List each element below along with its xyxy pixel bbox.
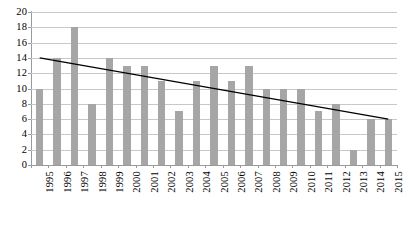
x-tick-mark [205,165,206,168]
x-tick-label: 2005 [219,171,230,193]
x-tick-label: 2007 [253,171,264,193]
trendline [40,58,389,119]
trendline-layer [31,12,397,165]
x-tick-label: 2009 [288,171,299,193]
plot-area [31,12,397,165]
x-tick-mark [327,165,328,168]
x-tick-mark [397,165,398,168]
x-axis: 1995199619971998199920002001200220032004… [31,165,397,225]
x-tick-label: 2004 [201,171,212,193]
x-tick-mark [101,165,102,168]
x-tick-mark [223,165,224,168]
x-tick-mark [170,165,171,168]
x-tick-label: 2010 [306,171,317,193]
x-tick-mark [345,165,346,168]
x-tick-label: 2003 [184,171,195,193]
y-tick-label: 10 [16,84,27,94]
y-tick-label: 4 [22,129,27,139]
x-tick-label: 2014 [375,171,386,193]
x-tick-label: 2011 [323,171,334,192]
x-tick-label: 2015 [393,171,404,193]
y-axis: 02468101214161820 [0,0,30,225]
x-tick-mark [380,165,381,168]
y-tick-label: 18 [16,22,27,32]
x-tick-mark [31,165,32,168]
x-tick-label: 2006 [236,171,247,193]
x-tick-label: 1999 [114,171,125,193]
y-tick-label: 20 [16,7,27,17]
x-tick-mark [258,165,259,168]
x-tick-label: 2012 [341,171,352,193]
x-tick-mark [240,165,241,168]
x-tick-mark [48,165,49,168]
x-tick-label: 2013 [358,171,369,193]
x-tick-label: 2008 [271,171,282,193]
x-tick-label: 2000 [131,171,142,193]
x-tick-mark [153,165,154,168]
x-tick-mark [310,165,311,168]
y-tick-label: 0 [22,160,27,170]
x-tick-mark [118,165,119,168]
x-tick-mark [275,165,276,168]
x-tick-label: 2001 [149,171,160,193]
y-tick-label: 8 [22,99,27,109]
x-tick-mark [136,165,137,168]
x-tick-label: 1995 [44,171,55,193]
x-tick-mark [66,165,67,168]
x-tick-mark [362,165,363,168]
x-tick-label: 1998 [97,171,108,193]
y-tick-label: 12 [16,68,27,78]
x-tick-mark [188,165,189,168]
x-tick-mark [83,165,84,168]
y-tick-label: 6 [22,114,27,124]
y-tick-label: 2 [22,145,27,155]
x-tick-label: 2002 [166,171,177,193]
y-tick-label: 16 [16,38,27,48]
x-tick-label: 1997 [79,171,90,193]
x-tick-label: 1996 [62,171,73,193]
x-tick-mark [292,165,293,168]
y-tick-label: 14 [16,53,27,63]
